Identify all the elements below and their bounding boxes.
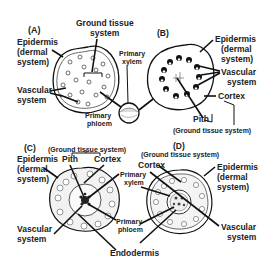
panel-b: (B) Epidermis (dermal system) Vascular s…	[147, 28, 256, 135]
panel-b-vascular-label: Vascular	[221, 67, 257, 77]
panel-d-label: (D)	[173, 141, 185, 151]
svg-text:system): system)	[221, 54, 253, 64]
panel-c-phloem-label: Primary	[116, 218, 142, 226]
svg-text:(dermal: (dermal	[221, 44, 252, 54]
panel-b-cortex-label: Cortex	[218, 91, 245, 101]
panel-a-xylem-label: Primary	[119, 50, 145, 58]
svg-text:system: system	[227, 77, 257, 87]
panel-a-vascular-label: Vascular	[17, 85, 53, 95]
svg-text:xylem: xylem	[122, 58, 142, 66]
panel-c-pith-label: Pith	[62, 154, 78, 164]
panel-d-vascular-label: Vascular	[221, 222, 257, 232]
svg-text:phloem: phloem	[87, 120, 112, 128]
svg-text:system): system)	[17, 174, 49, 184]
svg-text:system): system)	[217, 182, 249, 192]
panel-a-epidermis-label: Epidermis	[17, 37, 58, 47]
panel-d-ground-tissue-label: (Ground tissue system)	[141, 151, 219, 159]
panel-c-cortex-label: Cortex	[94, 154, 121, 164]
panel-b-label: (B)	[157, 28, 169, 38]
plant-tissue-diagram: (A) Epidermis (dermal system) Ground tis…	[0, 0, 273, 274]
panel-b-ground-tissue-label: (Ground tissue system)	[173, 127, 251, 135]
svg-text:system: system	[227, 232, 257, 242]
svg-text:(dermal: (dermal	[17, 164, 48, 174]
svg-text:system): system)	[17, 57, 49, 67]
panel-c-endodermis-label: Endodermis	[110, 248, 159, 258]
svg-text:system: system	[17, 234, 47, 244]
panel-c-epidermis-label: Epidermis	[17, 154, 58, 164]
svg-text:(dermal: (dermal	[217, 172, 248, 182]
svg-text:system: system	[17, 95, 47, 105]
panel-b-epidermis	[147, 44, 213, 109]
panel-d-epidermis-label: Epidermis	[217, 162, 258, 172]
panel-a-label: (A)	[28, 25, 41, 35]
panel-d: (D) (Ground tissue system) Cortex Epider…	[138, 141, 258, 243]
panel-b-epidermis-label: Epidermis	[215, 34, 256, 44]
svg-text:xylem: xylem	[124, 179, 144, 187]
panel-a-ground-tissue-label: Ground tissue	[76, 18, 134, 28]
svg-text:(dermal: (dermal	[17, 47, 48, 57]
panel-c-xylem-label: Primary	[120, 171, 146, 179]
svg-text:system: system	[90, 28, 120, 38]
panel-c-vascular-label: Vascular	[17, 224, 53, 234]
svg-text:phloem: phloem	[118, 226, 143, 234]
panel-c-label: (C)	[24, 143, 36, 153]
